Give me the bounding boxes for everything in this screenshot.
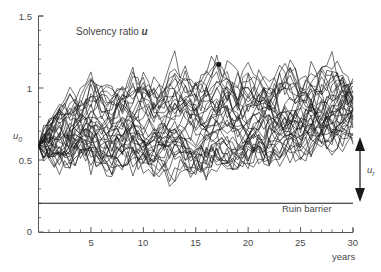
trajectory-paths — [39, 51, 354, 187]
x-tick-marks — [39, 227, 354, 232]
ur-label: ur — [367, 164, 375, 177]
y-tick-label-0.5: 0.5 — [8, 155, 32, 166]
y-tick-label-0: 0 — [8, 226, 32, 237]
ur-arrow-group — [355, 137, 365, 202]
x-axis-title: years — [332, 251, 355, 262]
ruin-barrier-label: Ruin barrier — [282, 203, 332, 214]
point-marker — [217, 62, 222, 66]
y-tick-marks — [39, 16, 44, 232]
chart-title: Solvency ratio u — [76, 26, 148, 37]
solvency-ratio-figure: Solvency ratio u 1.5 1 0.5 0 u0 ur Ruin … — [0, 0, 381, 272]
ur-arrow-head-up — [355, 137, 365, 151]
x-tick-label-5: 5 — [88, 237, 93, 248]
plot-canvas — [0, 0, 381, 272]
y-tick-label-1: 1 — [8, 83, 32, 94]
x-tick-label-30: 30 — [348, 237, 359, 248]
y-tick-label-1.5: 1.5 — [8, 11, 32, 22]
x-tick-label-20: 20 — [243, 237, 254, 248]
u0-subscript: 0 — [18, 136, 22, 143]
u0-axis-label: u0 — [13, 130, 22, 143]
chart-title-text: Solvency ratio — [76, 26, 139, 37]
ur-arrow-head-down — [355, 188, 365, 202]
x-tick-label-10: 10 — [138, 237, 149, 248]
trajectory-path — [39, 94, 354, 155]
x-tick-label-15: 15 — [190, 237, 201, 248]
chart-title-symbol: u — [142, 26, 148, 37]
ur-subscript: r — [372, 170, 374, 177]
x-tick-label-25: 25 — [295, 237, 306, 248]
